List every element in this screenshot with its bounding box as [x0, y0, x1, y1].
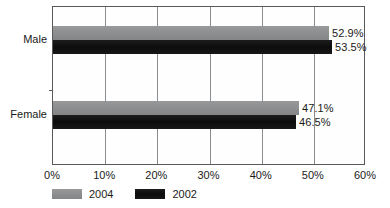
- legend-swatch-2002: [135, 189, 165, 199]
- category-label-female: Female: [10, 109, 47, 120]
- bar-male-2004: [53, 26, 329, 40]
- bar-male-2002: [53, 40, 332, 54]
- value-label-female-2004: 47.1%: [302, 103, 334, 114]
- category-label-male: Male: [23, 34, 47, 45]
- legend-swatch-2004: [52, 189, 82, 199]
- x-tick-label-50: 50%: [302, 170, 324, 181]
- x-tick-label-20: 20%: [145, 170, 167, 181]
- legend-label-2004: 2004: [89, 189, 113, 200]
- x-tick-label-0: 0%: [44, 170, 60, 181]
- bar-chart: Male Female 52.9%53.5%47.1%46.5% 0%10%20…: [0, 0, 390, 208]
- legend-label-2002: 2002: [172, 189, 196, 200]
- x-tick-label-40: 40%: [250, 170, 272, 181]
- bar-female-2004: [53, 101, 299, 115]
- value-label-male-2004: 52.9%: [332, 28, 364, 39]
- plot-area: [52, 6, 365, 165]
- bar-female-2002: [53, 115, 296, 129]
- legend-item-2002: 2002: [135, 189, 196, 200]
- x-tick-label-30: 30%: [197, 170, 219, 181]
- chart-legend: 2004 2002: [52, 188, 197, 200]
- value-label-male-2002: 53.5%: [335, 42, 367, 53]
- x-tick-label-10: 10%: [93, 170, 115, 181]
- x-tick-label-60: 60%: [354, 170, 376, 181]
- value-label-female-2002: 46.5%: [299, 117, 331, 128]
- legend-item-2004: 2004: [52, 189, 113, 200]
